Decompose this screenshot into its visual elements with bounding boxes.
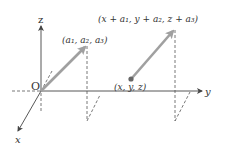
- position-vector-head-label: (a₁, a₂, a₃): [62, 35, 108, 45]
- vector-diagram: z y x O (a₁, a₂, a₃) (x + a₁, y + a₂, z …: [0, 0, 225, 149]
- translated-vector-head-label: (x + a₁, y + a₂, z + a₃): [98, 14, 199, 24]
- x-axis-label: x: [15, 134, 21, 145]
- projection-lines-2: [175, 30, 190, 121]
- projection-lines-1: [87, 46, 100, 121]
- z-axis-label: z: [38, 14, 43, 25]
- position-vector-arrow: [41, 47, 85, 91]
- y-axis-label: y: [204, 86, 211, 97]
- origin-label: O: [31, 80, 40, 93]
- translated-vector-arrow: [132, 31, 173, 78]
- tail-point: [128, 76, 133, 81]
- translated-vector-tail-label: (x, y, z): [114, 82, 147, 92]
